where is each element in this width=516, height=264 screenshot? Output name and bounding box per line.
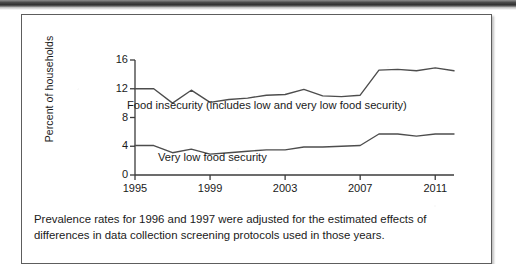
- y-axis-tick-label: 12: [102, 82, 128, 94]
- x-axis-tick-label: 2011: [413, 182, 457, 194]
- y-axis-tick-label: 16: [102, 53, 128, 65]
- series-annotation-very-low-food-security: Very low food security: [158, 151, 267, 163]
- y-axis-tick-marks: [130, 60, 135, 175]
- x-axis-tick-label: 1995: [113, 182, 157, 194]
- series-line-food-insecurity: [135, 68, 454, 103]
- figure-caption-line-2: differences in data collection screening…: [34, 227, 474, 243]
- y-axis-title: Percent of households: [43, 19, 55, 159]
- x-axis-tick-label: 1999: [188, 182, 232, 194]
- figure-box: Percent of households 0481216 1995199920…: [21, 14, 492, 264]
- y-axis-tick-label: 0: [102, 168, 128, 180]
- figure-caption-line-1: Prevalence rates for 1996 and 1997 were …: [34, 211, 474, 227]
- x-axis-tick-marks: [135, 175, 435, 180]
- chart-plot-area: Percent of households 0481216 1995199920…: [22, 15, 493, 190]
- y-axis-tick-label: 4: [102, 139, 128, 151]
- figure-caption: Prevalence rates for 1996 and 1997 were …: [34, 211, 474, 243]
- y-axis-tick-label: 8: [102, 111, 128, 123]
- x-axis-tick-label: 2007: [338, 182, 382, 194]
- series-annotation-food-insecurity: Food insecurity (includes low and very l…: [127, 99, 407, 111]
- x-axis-tick-label: 2003: [263, 182, 307, 194]
- scan-edge-bar: [0, 0, 516, 7]
- scan-edge-fade: [0, 7, 516, 10]
